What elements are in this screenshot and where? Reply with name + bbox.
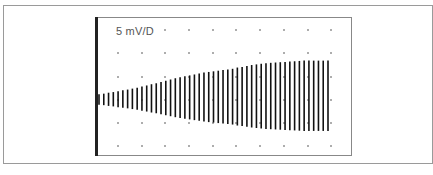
grid-dot <box>188 122 190 124</box>
grid-dot <box>164 29 166 31</box>
grid-dot <box>141 145 143 147</box>
grid-dot <box>117 52 119 54</box>
grid-dot <box>164 145 166 147</box>
grid-dot <box>188 29 190 31</box>
grid-dot <box>330 122 332 124</box>
grid-dot <box>235 29 237 31</box>
grid-dot <box>188 52 190 54</box>
grid-dot <box>235 52 237 54</box>
grid-dot <box>212 52 214 54</box>
grid-dot <box>307 29 309 31</box>
grid-dot <box>283 29 285 31</box>
grid-dot <box>330 76 332 78</box>
grid-dot <box>283 52 285 54</box>
grid-dot <box>330 145 332 147</box>
grid-dot <box>117 76 119 78</box>
grid-dot <box>212 29 214 31</box>
grid-dot <box>164 76 166 78</box>
grid-dot <box>330 52 332 54</box>
grid-dot <box>212 145 214 147</box>
grid-dot <box>164 52 166 54</box>
grid-dot <box>117 122 119 124</box>
grid-dot <box>141 52 143 54</box>
grid-dot <box>117 145 119 147</box>
grid-dot <box>141 76 143 78</box>
grid-dot <box>259 52 261 54</box>
scale-label: 5 mV/D <box>116 25 154 37</box>
grid-dot <box>283 145 285 147</box>
grid-dot <box>141 122 143 124</box>
grid-dot <box>188 145 190 147</box>
grid-dot <box>307 145 309 147</box>
grid-dot <box>259 145 261 147</box>
grid-dot <box>259 29 261 31</box>
grid-dot <box>164 122 166 124</box>
grid-dot <box>307 52 309 54</box>
grid-dot <box>330 99 332 101</box>
grid-dot <box>235 145 237 147</box>
grid-dot <box>330 29 332 31</box>
